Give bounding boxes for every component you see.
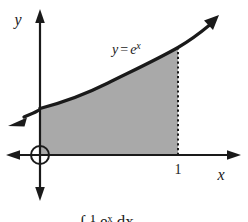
curve-label-exponent: x xyxy=(135,40,141,51)
y-axis-arrow-down xyxy=(35,187,45,201)
x-axis-arrow-left xyxy=(6,150,20,160)
caption-svg: ∫₀¹ eˣ dx xyxy=(0,205,248,222)
x-axis-label: x xyxy=(216,166,224,183)
curve-equation-label: y=ex xyxy=(110,40,141,57)
curve-label-lhs: y xyxy=(110,42,119,57)
caption-inner: ∫₀¹ eˣ dx xyxy=(0,205,248,222)
y-axis-label: y xyxy=(12,11,22,29)
curve-arrow-left xyxy=(8,118,27,127)
integral-caption: ∫₀¹ eˣ dx xyxy=(79,212,134,222)
y-axis-arrow-up xyxy=(35,9,45,23)
curve-label-operator: = xyxy=(120,42,128,57)
y-axis xyxy=(35,9,45,201)
caption-crop-region: ∫₀¹ eˣ dx xyxy=(0,205,248,222)
x-axis-arrow-right xyxy=(227,150,241,160)
figure-svg: y x 1 y=ex xyxy=(0,0,248,222)
x-tick-label-1: 1 xyxy=(175,162,182,177)
exponential-area-figure: y x 1 y=ex ∫₀¹ eˣ dx xyxy=(0,0,248,222)
